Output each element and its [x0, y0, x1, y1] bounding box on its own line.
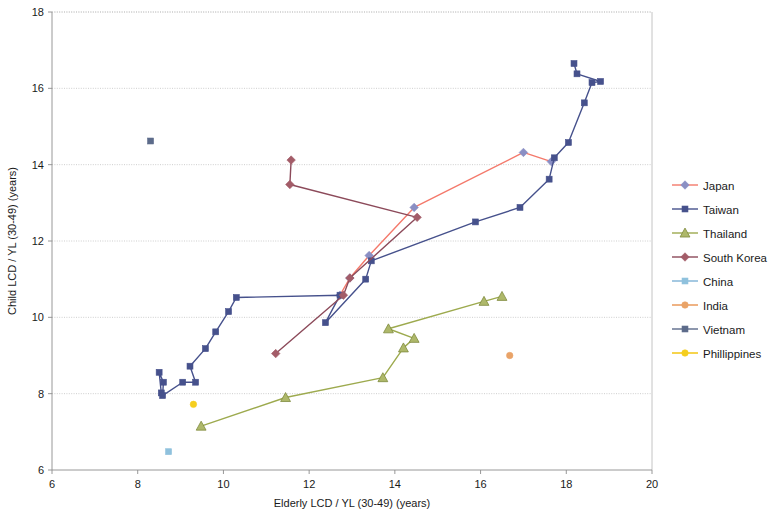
- legend-item-india[interactable]: India: [672, 300, 729, 312]
- y-tick-label: 10: [32, 311, 44, 323]
- data-point: [517, 204, 523, 210]
- data-point: [551, 155, 557, 161]
- legend-marker: [681, 253, 690, 262]
- x-tick-label: 12: [303, 478, 315, 490]
- data-point: [565, 140, 571, 146]
- x-tick-label: 6: [49, 478, 55, 490]
- data-point: [148, 138, 154, 144]
- legend-label: Phillippines: [703, 348, 761, 360]
- series-india: [506, 352, 512, 358]
- data-point: [546, 176, 552, 182]
- x-tick-label: 14: [389, 478, 401, 490]
- legend-label: South Korea: [703, 252, 768, 264]
- legend-label: China: [703, 276, 734, 288]
- data-point: [571, 61, 577, 67]
- y-tick-label: 8: [38, 388, 44, 400]
- data-point: [598, 78, 604, 84]
- legend-item-vietnam[interactable]: Vietnam: [672, 324, 745, 336]
- y-tick-label: 14: [32, 159, 44, 171]
- legend-label: India: [703, 300, 729, 312]
- legend-label: Taiwan: [703, 204, 739, 216]
- data-point: [233, 295, 239, 301]
- data-point: [472, 219, 478, 225]
- data-point: [574, 71, 580, 77]
- x-tick-label: 8: [135, 478, 141, 490]
- legend-label: Vietnam: [703, 324, 745, 336]
- data-point: [213, 329, 219, 335]
- data-point: [156, 369, 162, 375]
- data-point: [322, 320, 328, 326]
- data-point: [190, 401, 196, 407]
- data-point: [160, 393, 166, 399]
- data-point: [581, 100, 587, 106]
- legend-marker: [682, 206, 688, 212]
- legend-marker: [682, 326, 688, 332]
- x-axis-title: Elderly LCD / YL (30-49) (years): [274, 497, 431, 509]
- x-tick-label: 10: [217, 478, 229, 490]
- y-tick-label: 12: [32, 235, 44, 247]
- legend-label: Japan: [703, 180, 734, 192]
- series-phillippines: [190, 401, 196, 407]
- legend-marker: [681, 181, 690, 190]
- legend-marker: [682, 302, 688, 308]
- y-tick-label: 18: [32, 6, 44, 18]
- data-point: [187, 363, 193, 369]
- data-point: [180, 379, 186, 385]
- legend-label: Thailand: [703, 228, 747, 240]
- data-point: [193, 379, 199, 385]
- series-vietnam: [148, 138, 154, 144]
- data-point: [202, 346, 208, 352]
- legend-item-phillippines[interactable]: Phillippines: [672, 348, 761, 360]
- legend-marker: [682, 350, 688, 356]
- legend: JapanTaiwanThailandSouth KoreaChinaIndia…: [672, 180, 768, 360]
- legend-item-taiwan[interactable]: Taiwan: [672, 204, 739, 216]
- x-tick-label: 18: [560, 478, 572, 490]
- data-point: [166, 449, 172, 455]
- data-point: [160, 379, 166, 385]
- legend-item-china[interactable]: China: [672, 276, 734, 288]
- data-point: [589, 80, 595, 86]
- legend-item-japan[interactable]: Japan: [672, 180, 734, 192]
- legend-item-south-korea[interactable]: South Korea: [672, 252, 768, 264]
- data-point: [363, 276, 369, 282]
- legend-item-thailand[interactable]: Thailand: [672, 228, 747, 240]
- legend-marker: [682, 278, 688, 284]
- y-tick-label: 6: [38, 464, 44, 476]
- scatter-chart: 68101214161868101214161820Elderly LCD / …: [0, 0, 772, 517]
- y-axis-title: Child LCD / YL (30-49) (years): [6, 167, 18, 315]
- series-china: [166, 449, 172, 455]
- data-point: [226, 309, 232, 315]
- data-point: [506, 352, 512, 358]
- x-tick-label: 16: [474, 478, 486, 490]
- chart-container: 68101214161868101214161820Elderly LCD / …: [0, 0, 772, 517]
- y-tick-label: 16: [32, 82, 44, 94]
- x-tick-label: 20: [646, 478, 658, 490]
